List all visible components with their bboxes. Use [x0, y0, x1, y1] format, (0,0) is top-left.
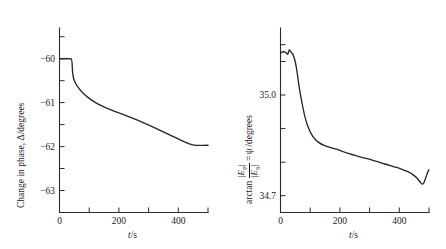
- right-y-ticklabels: 34.7 35.0: [259, 90, 276, 201]
- left-ytick-label-m61: −61: [40, 98, 55, 108]
- left-ytick-label-m60: −60: [40, 54, 55, 64]
- right-x-ticklabels: 0 200 400: [278, 216, 407, 226]
- right-data-curve: [281, 50, 430, 184]
- figure-container: Change in phase, Δ/degrees −63: [0, 0, 446, 249]
- right-xtick-label-200: 200: [333, 216, 348, 226]
- left-xtick-label-400: 400: [171, 216, 186, 226]
- right-xtick-label-0: 0: [278, 216, 283, 226]
- left-ytick-label-m62: −62: [40, 142, 55, 152]
- right-ytick-label-35-0: 35.0: [259, 90, 276, 100]
- right-ytick-label-34-7: 34.7: [259, 191, 276, 201]
- left-data-curve: [60, 59, 209, 146]
- chart-panel-left: Change in phase, Δ/degrees −63: [0, 0, 223, 249]
- left-x-axis-title-unit: /s: [131, 230, 137, 240]
- left-plot-svg: −63 −62 −61 −60 0 200 400: [0, 0, 223, 249]
- right-plot-svg: 34.7 35.0 0 200 400: [223, 0, 446, 249]
- right-xtick-label-400: 400: [392, 216, 407, 226]
- left-y-ticks: [60, 37, 65, 213]
- left-y-ticklabels: −63 −62 −61 −60: [40, 54, 55, 196]
- right-x-ticks: [281, 208, 430, 213]
- left-x-ticks: [60, 208, 209, 213]
- right-x-axis-title-unit: /s: [352, 230, 358, 240]
- right-y-ticks: [281, 45, 286, 213]
- left-ytick-label-m63: −63: [40, 186, 55, 196]
- left-xtick-label-0: 0: [57, 216, 62, 226]
- left-xtick-label-200: 200: [112, 216, 127, 226]
- left-x-axis-title: t/s: [0, 230, 223, 240]
- right-x-axis-title: t/s: [223, 230, 446, 240]
- left-x-ticklabels: 0 200 400: [57, 216, 186, 226]
- chart-panel-right: arctan |EP| |ES| = ψ/degrees 34.: [223, 0, 446, 249]
